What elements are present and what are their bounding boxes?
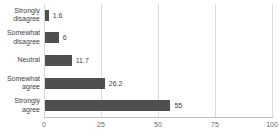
bar-chart: 1.6611.726.255 Strongly disagreeSomewhat… [0,0,279,135]
category-label: Strongly disagree [0,4,40,27]
bar [45,78,105,89]
bar [45,100,170,111]
category-label: Somewhat agree [0,72,40,95]
tick-label: 25 [97,121,105,128]
value-label: 55 [174,102,182,109]
bar-row: 1.6 [45,4,273,27]
bar [45,55,72,66]
plot-area: 1.6611.726.255 [44,4,273,118]
tick-label: 100 [266,121,278,128]
tick-label: 50 [154,121,162,128]
tick-label: 0 [42,121,46,128]
value-label: 1.6 [53,12,63,19]
bar-row: 6 [45,27,273,50]
category-label: Somewhat disagree [0,27,40,50]
tick-label: 75 [211,121,219,128]
value-label: 6 [63,34,67,41]
value-label: 11.7 [76,57,89,64]
category-label: Strongly agree [0,94,40,117]
value-label: 26.2 [109,80,123,87]
bar-row: 11.7 [45,49,273,72]
bar [45,10,49,21]
category-label: Neutral [0,49,40,72]
bar-row: 55 [45,94,273,117]
bar [45,32,59,43]
bar-row: 26.2 [45,72,273,95]
